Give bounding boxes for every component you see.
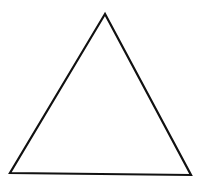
diagram-canvas <box>0 0 200 185</box>
triangle-shape <box>10 14 191 175</box>
